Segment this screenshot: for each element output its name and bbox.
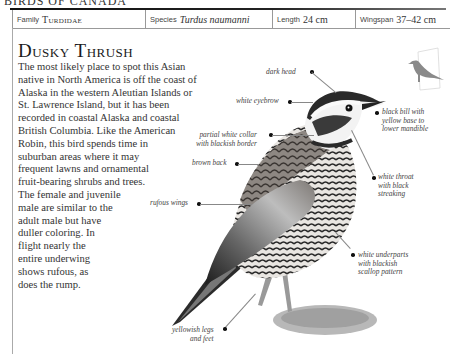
wingspan-cell: Wingspan 37–42 cm bbox=[356, 10, 450, 28]
label-line: lower mandible bbox=[382, 125, 428, 134]
wingspan-value: 37–42 cm bbox=[396, 14, 436, 25]
leader-line bbox=[200, 204, 252, 205]
leader-line bbox=[291, 102, 313, 103]
label-rufous-wings: rufous wings bbox=[150, 199, 188, 208]
label-line: scallop pattern bbox=[358, 268, 408, 277]
family-label: Family bbox=[17, 15, 39, 24]
leader-line bbox=[238, 164, 258, 165]
family-value: Turdidae bbox=[42, 14, 82, 25]
label-black-bill: black bill with yellow base to lower man… bbox=[382, 108, 428, 134]
pointer-dot bbox=[375, 111, 379, 115]
pointer-dot bbox=[351, 253, 355, 257]
length-value: 24 cm bbox=[303, 14, 328, 25]
label-white-eyebrow: white eyebrow bbox=[236, 97, 279, 106]
pointer-dot bbox=[372, 176, 376, 180]
pointer-dot bbox=[223, 327, 227, 331]
length-label: Length bbox=[277, 15, 300, 24]
species-value: Turdus naumanni bbox=[180, 14, 250, 25]
wingspan-label: Wingspan bbox=[360, 15, 393, 24]
label-partial-white-collar: partial white collar with blackish borde… bbox=[196, 131, 257, 148]
label-yellowish-legs: yellowish legs and feet bbox=[172, 326, 214, 343]
leader-line bbox=[272, 135, 314, 136]
label-white-throat: white throat with black streaking bbox=[378, 173, 414, 199]
species-cell: Species Turdus naumanni bbox=[146, 10, 273, 28]
label-brown-back: brown back bbox=[192, 159, 226, 168]
family-cell: Family Turdidae bbox=[13, 10, 146, 28]
label-white-underparts: white underparts with blackish scallop p… bbox=[358, 251, 408, 277]
length-cell: Length 24 cm bbox=[273, 10, 356, 28]
label-dark-head: dark head bbox=[266, 68, 296, 77]
label-line: with blackish border bbox=[196, 140, 257, 149]
species-info-bar: Family Turdidae Species Turdus naumanni … bbox=[12, 10, 450, 29]
page-left-border bbox=[12, 28, 13, 354]
species-label: Species bbox=[150, 15, 177, 24]
bird-size-silhouette-icon bbox=[404, 42, 448, 92]
label-line: streaking bbox=[378, 190, 414, 199]
label-line: and feet bbox=[172, 335, 214, 344]
